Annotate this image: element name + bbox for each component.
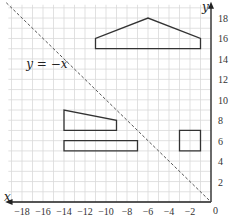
x-tick-label: −12 [77, 206, 93, 217]
tick-labels: −18−16−14−12−10−8−6−4−2246810121416180xy… [4, 0, 228, 217]
x-tick-label: −14 [56, 206, 72, 217]
y-tick-label: 4 [218, 156, 223, 167]
y-tick-label: 18 [218, 13, 228, 24]
y-axis-label: y [201, 0, 209, 14]
y-tick-label: 12 [218, 74, 228, 85]
reflection-line [6, 3, 211, 202]
y-tick-label: 16 [218, 33, 228, 44]
y-axis-arrow-icon [208, 2, 214, 9]
x-tick-label: −8 [122, 206, 133, 217]
y-tick-label: 14 [218, 54, 228, 65]
x-tick-label: −16 [35, 206, 51, 217]
x-tick-label: −10 [98, 206, 114, 217]
line-y-equals-neg-x [6, 3, 211, 202]
shapes [64, 18, 201, 151]
origin-label: 0 [213, 205, 218, 216]
y-tick-label: 6 [218, 136, 223, 147]
long-rectangle [64, 141, 138, 151]
x-tick-label: −18 [14, 206, 30, 217]
line-label: y = −x [25, 57, 68, 71]
x-tick-label: −6 [143, 206, 154, 217]
x-axis-label: x [4, 190, 11, 204]
coordinate-plane: −18−16−14−12−10−8−6−4−2246810121416180xy… [0, 0, 233, 220]
x-tick-label: −4 [164, 206, 175, 217]
y-tick-label: 2 [218, 177, 223, 188]
y-tick-label: 8 [218, 115, 223, 126]
x-tick-label: −2 [185, 206, 196, 217]
y-tick-label: 10 [218, 95, 228, 106]
